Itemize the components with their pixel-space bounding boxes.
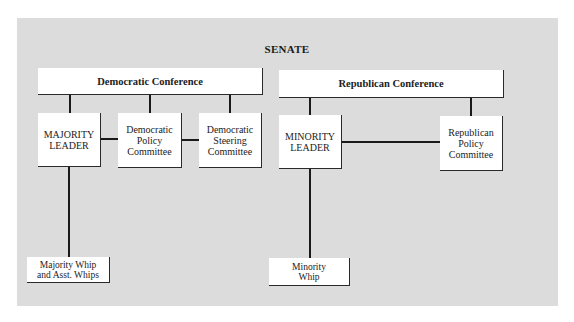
connector-rep-conf-to-minority-leader xyxy=(309,98,311,115)
connector-dem-conf-to-policy xyxy=(149,95,151,113)
majority-leader-box: MAJORITY LEADER xyxy=(38,113,101,167)
connector-rep-conf-to-policy xyxy=(470,98,472,116)
connector-minority-leader-to-policy xyxy=(342,141,440,143)
diagram-title: SENATE xyxy=(0,43,574,55)
connector-minority-leader-to-whip xyxy=(309,169,311,258)
connector-dem-conf-to-majority-leader xyxy=(69,95,71,113)
republican-conference-box: Republican Conference xyxy=(279,70,504,98)
majority-whip-label: Majority Whip and Asst. Whips xyxy=(37,260,99,280)
minority-whip-box: Minority Whip xyxy=(269,258,350,286)
minority-leader-box: MINORITY LEADER xyxy=(279,115,342,169)
connector-majority-leader-to-policy xyxy=(101,138,118,140)
republican-policy-committee-label: Republican Policy Committee xyxy=(448,127,494,160)
democratic-conference-label: Democratic Conference xyxy=(97,76,203,87)
connector-dem-conf-to-steering xyxy=(229,95,231,113)
majority-leader-label: MAJORITY LEADER xyxy=(44,129,95,151)
majority-whip-box: Majority Whip and Asst. Whips xyxy=(27,257,110,283)
minority-leader-label: MINORITY LEADER xyxy=(285,131,335,153)
democratic-steering-committee-label: Democratic Steering Committee xyxy=(207,124,254,157)
republican-conference-label: Republican Conference xyxy=(338,78,443,89)
connector-majority-leader-to-whip xyxy=(68,167,70,257)
democratic-policy-committee-label: Democratic Policy Committee xyxy=(126,124,173,157)
connector-policy-to-steering xyxy=(182,139,199,141)
democratic-steering-committee-box: Democratic Steering Committee xyxy=(199,113,262,168)
republican-policy-committee-box: Republican Policy Committee xyxy=(440,116,503,171)
democratic-policy-committee-box: Democratic Policy Committee xyxy=(118,113,182,168)
minority-whip-label: Minority Whip xyxy=(292,262,326,282)
democratic-conference-box: Democratic Conference xyxy=(38,68,263,95)
